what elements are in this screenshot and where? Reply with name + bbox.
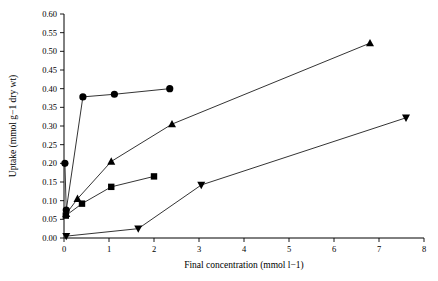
data-point-square — [63, 212, 69, 218]
y-tick-label: 0.60 — [42, 9, 57, 19]
y-axis-ticks: 0.000.050.100.150.200.250.300.350.400.45… — [42, 9, 64, 243]
series-triangle-up-series — [62, 39, 374, 217]
x-tick-label: 0 — [62, 244, 66, 254]
x-tick-label: 1 — [107, 244, 111, 254]
x-tick-label: 7 — [377, 244, 381, 254]
series-circle-series — [61, 85, 173, 214]
chart-svg: 0.000.050.100.150.200.250.300.350.400.45… — [0, 0, 438, 281]
y-tick-label: 0.55 — [42, 28, 57, 38]
y-tick-label: 0.40 — [42, 84, 57, 94]
data-point-square — [151, 173, 157, 179]
y-axis-title: Uptake (mmol g−1 dry wt) — [8, 75, 19, 177]
x-tick-label: 8 — [422, 244, 426, 254]
data-point-circle — [166, 85, 173, 92]
data-point-triangle-up — [366, 39, 374, 46]
series-line — [65, 89, 170, 210]
x-axis-ticks: 012345678 — [62, 238, 426, 254]
chart-figure: 0.000.050.100.150.200.250.300.350.400.45… — [0, 0, 438, 281]
series-line — [66, 176, 154, 215]
x-tick-label: 5 — [287, 244, 291, 254]
y-tick-label: 0.45 — [42, 65, 57, 75]
y-tick-label: 0.30 — [42, 121, 57, 131]
data-point-triangle-up — [107, 157, 115, 164]
data-point-square — [79, 200, 85, 206]
data-point-circle — [79, 93, 86, 100]
y-tick-label: 0.15 — [42, 177, 57, 187]
series-triangle-down-series — [62, 115, 410, 241]
x-tick-label: 3 — [197, 244, 201, 254]
x-axis-title: Final concentration (mmol l−1) — [184, 260, 304, 271]
x-tick-label: 6 — [332, 244, 336, 254]
data-point-triangle-down — [197, 182, 205, 189]
y-tick-label: 0.20 — [42, 158, 57, 168]
data-point-square — [108, 184, 114, 190]
y-tick-label: 0.35 — [42, 102, 57, 112]
data-point-circle — [61, 160, 68, 167]
axes — [64, 14, 424, 238]
data-point-circle — [111, 91, 118, 98]
y-tick-label: 0.10 — [42, 196, 57, 206]
data-point-triangle-down — [62, 233, 70, 240]
y-tick-label: 0.25 — [42, 140, 57, 150]
x-tick-label: 2 — [152, 244, 156, 254]
y-tick-label: 0.00 — [42, 233, 57, 243]
data-point-triangle-up — [168, 120, 176, 127]
x-tick-label: 4 — [242, 244, 247, 254]
y-tick-label: 0.05 — [42, 214, 57, 224]
series-line — [66, 118, 406, 236]
y-tick-label: 0.50 — [42, 46, 57, 56]
